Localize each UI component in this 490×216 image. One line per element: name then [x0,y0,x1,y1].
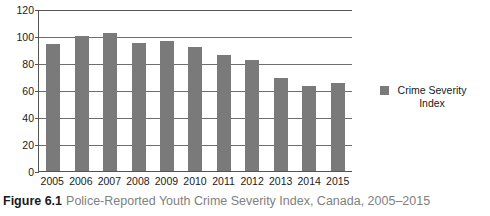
bar-slot [153,10,181,171]
bar[interactable] [331,83,345,171]
y-axis-tick-mark [35,172,39,173]
bar-series [39,10,352,171]
y-axis: 020406080100120 [0,0,34,190]
x-axis-tick-label: 2010 [181,174,210,190]
x-axis-tick-label: 2014 [295,174,324,190]
y-axis-tick-label: 80 [4,59,34,69]
bar-slot [210,10,238,171]
x-axis-tick-label: 2012 [238,174,267,190]
bar-slot [324,10,352,171]
bar-slot [267,10,295,171]
x-axis-tick-label: 2005 [38,174,67,190]
bar-slot [96,10,124,171]
bar-slot [238,10,266,171]
bar[interactable] [132,43,146,171]
plot-area [38,10,352,172]
x-axis-tick-label: 2015 [323,174,352,190]
bar[interactable] [103,33,117,171]
y-axis-tick-label: 0 [4,167,34,177]
legend-swatch-icon [380,86,389,95]
bar[interactable] [245,60,259,171]
bar-slot [39,10,67,171]
x-axis-tick-label: 2007 [95,174,124,190]
x-axis-tick-label: 2006 [67,174,96,190]
figure-container: 020406080100120 200520062007200820092010… [0,0,490,216]
x-axis-tick-label: 2011 [209,174,238,190]
chart-area: 020406080100120 200520062007200820092010… [0,0,490,190]
x-axis-tick-label: 2013 [266,174,295,190]
bar[interactable] [75,36,89,171]
bar[interactable] [160,41,174,171]
y-axis-tick-label: 120 [4,5,34,15]
bar[interactable] [46,44,60,171]
bar[interactable] [302,86,316,171]
legend-label: Crime Severity Index [394,84,470,109]
y-axis-tick-label: 60 [4,86,34,96]
bar[interactable] [188,47,202,171]
legend: Crime Severity Index [380,84,488,109]
caption-text: Police-Reported Youth Crime Severity Ind… [66,194,430,208]
x-axis: 2005200620072008200920102011201220132014… [38,174,352,190]
y-axis-tick-label: 20 [4,140,34,150]
bar[interactable] [274,78,288,171]
x-axis-tick-label: 2008 [124,174,153,190]
caption: Figure 6.1Police-Reported Youth Crime Se… [3,193,490,210]
y-axis-tick-label: 100 [4,32,34,42]
bar-slot [67,10,95,171]
bar[interactable] [217,55,231,171]
x-axis-tick-label: 2009 [152,174,181,190]
caption-figure-number: Figure 6.1 [3,194,62,208]
y-axis-tick-label: 40 [4,113,34,123]
bar-slot [124,10,152,171]
bar-slot [295,10,323,171]
bar-slot [181,10,209,171]
